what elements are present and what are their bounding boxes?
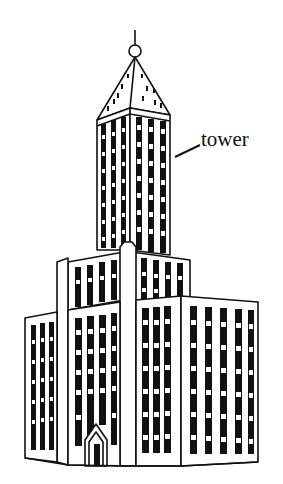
left-wing (25, 312, 57, 462)
spire (129, 30, 141, 57)
label-leader-line (175, 145, 200, 157)
tower (97, 108, 170, 255)
tower-label: tower (201, 127, 249, 151)
skyscraper-diagram: tower (0, 0, 283, 484)
